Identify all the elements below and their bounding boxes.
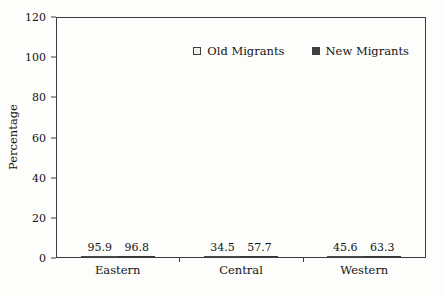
- x-label-eastern: Eastern: [56, 263, 179, 277]
- bar-wrap: 34.5: [204, 256, 241, 257]
- bar-eastern-new-migrants: [118, 256, 155, 257]
- y-tick-label: 120: [25, 11, 46, 24]
- legend-label: New Migrants: [326, 44, 409, 58]
- bar-chart-figure: 020406080100120 Percentage 95.996.834.55…: [0, 0, 444, 297]
- y-axis-title: Percentage: [6, 104, 20, 170]
- bar-western-new-migrants: [364, 256, 401, 257]
- bar-central-new-migrants: [241, 256, 278, 257]
- bar-value-label: 57.7: [233, 241, 286, 254]
- y-tick-label: 0: [39, 252, 46, 265]
- legend-swatch-icon: [193, 47, 201, 55]
- x-boundary-tick: [179, 258, 180, 262]
- bar-value-label: 96.8: [110, 241, 163, 254]
- bar-group-eastern: 95.996.8: [57, 18, 180, 257]
- plot-area: 95.996.834.557.745.663.3 Old MigrantsNew…: [56, 17, 426, 258]
- legend-label: Old Migrants: [207, 44, 284, 58]
- legend: Old MigrantsNew Migrants: [193, 44, 409, 58]
- y-tick-label: 100: [25, 51, 46, 64]
- bar-value-label: 63.3: [356, 241, 409, 254]
- bar-wrap: 57.7: [241, 256, 278, 257]
- bar-eastern-old-migrants: [81, 256, 118, 257]
- bar-western-old-migrants: [327, 256, 364, 257]
- legend-item-new-migrants: New Migrants: [312, 44, 409, 58]
- y-tick-label: 20: [32, 211, 46, 224]
- legend-swatch-icon: [312, 47, 320, 55]
- y-tick-label: 80: [32, 91, 46, 104]
- y-tick-label: 60: [32, 131, 46, 144]
- bar-wrap: 96.8: [118, 256, 155, 257]
- x-label-western: Western: [303, 263, 426, 277]
- x-boundary-tick: [303, 258, 304, 262]
- bar-wrap: 63.3: [364, 256, 401, 257]
- x-axis-labels: EasternCentralWestern: [56, 258, 426, 277]
- bar-wrap: 45.6: [327, 256, 364, 257]
- y-tick-label: 40: [32, 171, 46, 184]
- legend-item-old-migrants: Old Migrants: [193, 44, 284, 58]
- bar-central-old-migrants: [204, 256, 241, 257]
- bar-wrap: 95.9: [81, 256, 118, 257]
- x-axis: EasternCentralWestern: [56, 258, 426, 288]
- x-label-central: Central: [179, 263, 302, 277]
